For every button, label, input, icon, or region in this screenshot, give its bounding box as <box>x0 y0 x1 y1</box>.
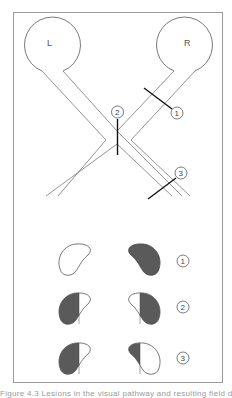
field-row-1-number: 1 <box>181 257 186 266</box>
figure-caption: Figure 4.3 Lesions in the visual pathway… <box>0 389 232 398</box>
field-3-right-eye <box>114 337 160 382</box>
field-3-left-eye <box>55 337 90 382</box>
optic-pathways <box>42 71 195 196</box>
field-row-3: 3 <box>55 337 189 382</box>
right-eye-label: R <box>184 38 191 48</box>
field-2-left-eye <box>55 287 90 332</box>
left-eye <box>24 17 80 71</box>
left-nerve-outer <box>42 71 106 196</box>
field-1-right-eye <box>129 244 160 275</box>
left-eye-label: L <box>47 38 52 48</box>
right-nerve-inner <box>117 71 174 131</box>
field-row-1: 1 <box>59 244 189 275</box>
field-1-left-eye <box>59 244 90 275</box>
left-nerve-inner <box>63 71 182 196</box>
field-row-2: 2 <box>55 287 189 332</box>
field-row-3-number: 3 <box>181 354 186 363</box>
lesion-3-number: 3 <box>179 169 184 178</box>
field-2-right-eye <box>129 287 165 332</box>
lesion-1-number: 1 <box>175 109 180 118</box>
figure-frame <box>14 13 223 383</box>
field-row-2-number: 2 <box>181 303 186 312</box>
lesion-2-number: 2 <box>115 108 120 117</box>
